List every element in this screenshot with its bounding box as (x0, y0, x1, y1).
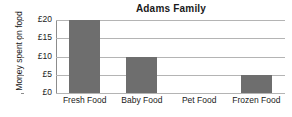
bar (241, 75, 272, 93)
bar (69, 20, 100, 93)
y-axis-tick-label: £20 (26, 15, 52, 24)
x-axis-category-label: Pet Food (171, 95, 228, 106)
bar (126, 57, 157, 94)
y-axis-tick-mark (21, 20, 24, 21)
y-axis-tick-mark (21, 93, 24, 94)
x-axis-category-label: Frozen Food (228, 95, 285, 106)
x-axis-category-label: Baby Food (113, 95, 170, 106)
y-axis-title: Money spent on food (14, 3, 24, 99)
y-axis-tick-label: £10 (26, 52, 52, 61)
bar-chart: Adams Family Money spent on food £0£5£10… (0, 0, 292, 117)
plot-area (56, 20, 285, 93)
y-axis-tick-label: £5 (26, 70, 52, 79)
x-axis-category-labels: Fresh FoodBaby FoodPet FoodFrozen Food (56, 95, 285, 111)
y-axis-tick-label: £0 (26, 88, 52, 97)
gridline (56, 93, 285, 94)
y-axis-tick-mark (21, 38, 24, 39)
x-axis-category-label: Fresh Food (56, 95, 113, 106)
y-axis-tick-mark (21, 75, 24, 76)
y-axis-tick-label: £15 (26, 33, 52, 42)
y-axis-tick-mark (21, 57, 24, 58)
y-axis-tick-labels: £0£5£10£15£20 (24, 20, 52, 93)
chart-title: Adams Family (56, 2, 286, 15)
